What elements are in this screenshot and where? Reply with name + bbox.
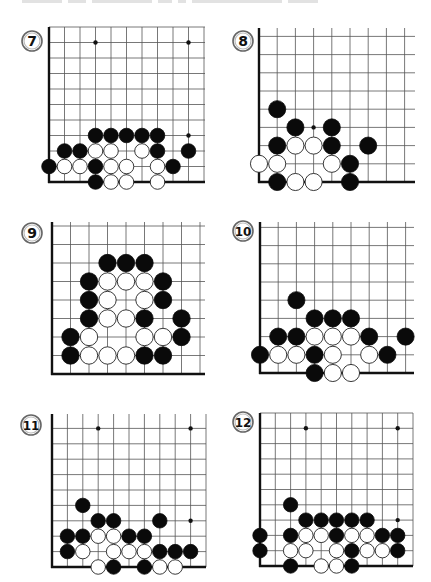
black-stone <box>62 347 79 364</box>
black-stone <box>117 254 134 271</box>
black-stone <box>342 310 359 327</box>
black-stone <box>153 544 167 558</box>
star-point <box>311 125 315 129</box>
white-stone <box>137 544 151 558</box>
white-stone <box>329 544 343 558</box>
white-stone <box>104 144 119 159</box>
black-stone <box>76 498 90 512</box>
star-point <box>186 40 190 44</box>
star-point <box>93 40 97 44</box>
problem-number-badge: 12 <box>233 412 253 432</box>
black-stone <box>314 513 328 527</box>
white-stone <box>88 144 103 159</box>
star-point <box>304 426 308 430</box>
black-stone <box>88 128 103 143</box>
black-stone <box>306 346 323 363</box>
white-stone <box>99 310 116 327</box>
black-stone <box>76 529 90 543</box>
black-stone <box>360 137 377 154</box>
white-stone <box>269 155 286 172</box>
white-stone <box>329 559 343 573</box>
go-diagram-8: 8 <box>233 28 415 191</box>
problem-number: 9 <box>27 225 37 241</box>
black-stone <box>88 159 103 174</box>
black-stone <box>270 328 287 345</box>
black-stone <box>137 560 151 574</box>
star-point <box>96 426 100 430</box>
white-stone <box>57 159 72 174</box>
white-stone <box>136 291 153 308</box>
problem-number-badge: 10 <box>233 221 253 241</box>
black-stone <box>183 544 197 558</box>
black-stone <box>329 528 343 542</box>
white-stone <box>361 346 378 363</box>
white-stone <box>122 544 136 558</box>
black-stone <box>122 529 136 543</box>
white-stone <box>306 328 323 345</box>
star-point <box>396 518 400 522</box>
white-stone <box>104 175 119 190</box>
white-stone <box>288 346 305 363</box>
white-stone <box>299 544 313 558</box>
black-stone <box>345 559 359 573</box>
white-stone <box>136 273 153 290</box>
black-stone <box>42 159 57 174</box>
white-stone <box>117 273 134 290</box>
white-stone <box>73 159 88 174</box>
white-stone <box>119 159 134 174</box>
white-stone <box>314 528 328 542</box>
black-stone <box>287 119 304 136</box>
white-stone <box>324 328 341 345</box>
white-stone <box>287 137 304 154</box>
black-stone <box>283 559 297 573</box>
white-stone <box>342 364 359 381</box>
go-diagram-10: 10 <box>233 221 414 382</box>
go-diagram-9: 9 <box>22 222 205 375</box>
white-stone <box>283 544 297 558</box>
black-stone <box>288 292 305 309</box>
black-stone <box>173 328 190 345</box>
black-stone <box>136 310 153 327</box>
white-stone <box>345 528 359 542</box>
white-stone <box>168 560 182 574</box>
problem-number: 11 <box>23 419 40 433</box>
black-stone <box>299 513 313 527</box>
black-stone <box>283 528 297 542</box>
black-stone <box>80 273 97 290</box>
go-diagram-12: 12 <box>233 412 413 573</box>
go-diagram-11: 11 <box>21 414 206 574</box>
black-stone <box>269 137 286 154</box>
white-stone <box>99 347 116 364</box>
white-stone <box>119 175 134 190</box>
black-stone <box>375 528 389 542</box>
white-stone <box>106 544 120 558</box>
black-stone <box>62 328 79 345</box>
star-point <box>396 426 400 430</box>
white-stone <box>91 529 105 543</box>
white-stone <box>324 364 341 381</box>
black-stone <box>80 310 97 327</box>
white-stone <box>76 544 90 558</box>
black-stone <box>253 544 267 558</box>
white-stone <box>117 347 134 364</box>
black-stone <box>379 346 396 363</box>
black-stone <box>119 128 134 143</box>
black-stone <box>345 544 359 558</box>
white-stone <box>80 328 97 345</box>
black-stone <box>150 144 165 159</box>
white-stone <box>150 175 165 190</box>
black-stone <box>341 155 358 172</box>
black-stone <box>106 560 120 574</box>
black-stone <box>323 119 340 136</box>
black-stone <box>166 159 181 174</box>
black-stone <box>391 544 405 558</box>
black-stone <box>324 310 341 327</box>
star-point <box>188 519 192 523</box>
problem-number-badge: 9 <box>22 223 42 243</box>
black-stone <box>323 137 340 154</box>
white-stone <box>99 273 116 290</box>
black-stone <box>80 291 97 308</box>
black-stone <box>88 175 103 190</box>
white-stone <box>150 159 165 174</box>
star-point <box>186 133 190 137</box>
